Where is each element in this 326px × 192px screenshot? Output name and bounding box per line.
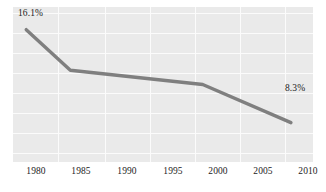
x-tick-label: 2005 xyxy=(253,166,272,176)
data-label-end: 8.3% xyxy=(285,83,305,93)
x-tick-label: 1985 xyxy=(71,166,90,176)
line-chart: 16.1% 8.3% 1980 1985 1990 1995 2000 2005… xyxy=(0,0,326,192)
x-axis: 1980 1985 1990 1995 2000 2005 2010 xyxy=(13,166,313,186)
plot-area xyxy=(13,7,313,162)
x-tick-label: 1995 xyxy=(163,166,182,176)
data-label-start: 16.1% xyxy=(18,8,43,18)
series-polyline xyxy=(26,30,291,123)
x-tick-label: 1980 xyxy=(26,166,45,176)
series-line xyxy=(13,7,313,162)
x-tick-label: 2000 xyxy=(208,166,227,176)
x-tick-label: 2010 xyxy=(298,166,317,176)
x-tick-label: 1990 xyxy=(117,166,136,176)
